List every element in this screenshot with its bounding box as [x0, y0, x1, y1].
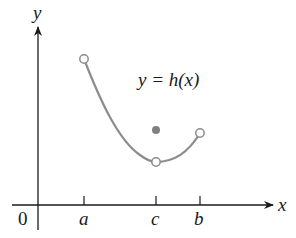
tick-label-c: c: [151, 208, 160, 229]
tick-label-b: b: [194, 208, 204, 229]
open-point-hole-at-c: [152, 158, 160, 166]
filled-point-value-at-c: [152, 126, 160, 134]
open-point-left-endpoint: [80, 55, 88, 63]
x-axis-label: x: [277, 194, 287, 215]
function-graph: y x 0 a c b y = h(x): [0, 0, 296, 238]
tick-label-a: a: [79, 208, 89, 229]
origin-label: 0: [18, 208, 28, 229]
open-point-right-endpoint: [196, 129, 204, 137]
function-label: y = h(x): [136, 69, 199, 91]
y-axis-label: y: [31, 2, 42, 23]
